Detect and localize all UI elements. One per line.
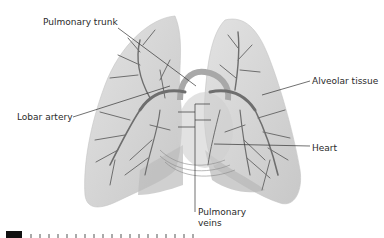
label-pulmonary-veins-line1: Pulmonary xyxy=(198,207,246,218)
cropped-caption-marker xyxy=(6,231,22,238)
label-pulmonary-trunk: Pulmonary trunk xyxy=(43,17,118,28)
label-heart: Heart xyxy=(312,143,337,154)
label-alveolar-tissue: Alveolar tissue xyxy=(312,76,378,87)
label-lobar-artery: Lobar artery xyxy=(17,112,72,123)
cropped-caption-text xyxy=(30,234,200,238)
heart-shape xyxy=(177,92,233,168)
label-pulmonary-veins-line2: veins xyxy=(198,218,222,229)
